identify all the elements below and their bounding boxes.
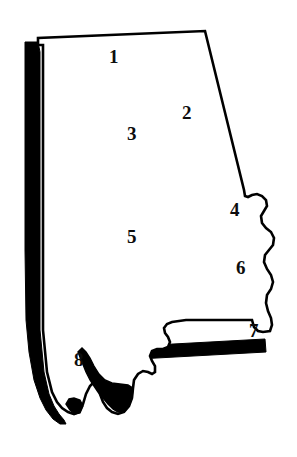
region-label-5: 5 <box>127 227 137 246</box>
region-label-6: 6 <box>236 258 246 277</box>
region-label-3: 3 <box>127 124 137 143</box>
map-graphic <box>0 0 297 457</box>
alabama-outline-map: 1 2 3 4 5 6 7 8 <box>0 0 297 457</box>
region-label-7: 7 <box>249 321 259 340</box>
region-label-8: 8 <box>74 350 84 369</box>
region-label-2: 2 <box>182 103 192 122</box>
region-label-4: 4 <box>230 200 240 219</box>
region-label-1: 1 <box>109 47 119 66</box>
